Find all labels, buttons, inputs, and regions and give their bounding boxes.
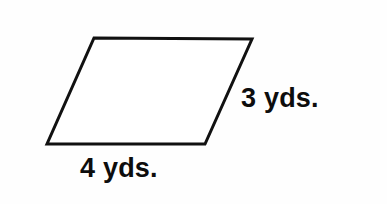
parallelogram-shape [0, 0, 387, 204]
parallelogram-outline [47, 38, 252, 144]
right-side-length-label: 3 yds. [241, 85, 319, 112]
figure-canvas: 4 yds. 3 yds. [0, 0, 387, 204]
bottom-side-length-label: 4 yds. [80, 155, 158, 182]
